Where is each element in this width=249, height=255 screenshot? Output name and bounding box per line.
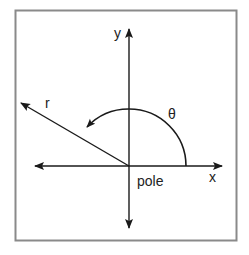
radius-vector-arrow [21, 103, 129, 166]
angle-theta-label: θ [168, 106, 176, 122]
frame-border [16, 11, 237, 241]
radius-label: r [45, 95, 50, 111]
pole-label: pole [137, 173, 164, 189]
x-axis-label: x [209, 169, 216, 185]
polar-coordinates-diagram: y x r θ pole [0, 0, 249, 255]
y-axis-label: y [114, 25, 121, 41]
